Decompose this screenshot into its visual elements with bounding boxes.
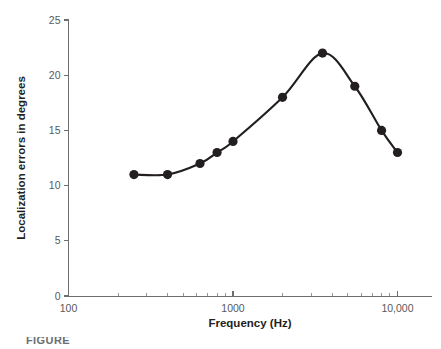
y-tick-label: 10 bbox=[49, 179, 61, 191]
data-series-line bbox=[134, 53, 398, 175]
data-point bbox=[163, 170, 172, 179]
data-point bbox=[318, 49, 327, 58]
x-tick-label: 1000 bbox=[221, 302, 245, 314]
y-axis-ticks bbox=[64, 20, 69, 296]
figure-caption-text: FIGURE bbox=[26, 337, 326, 346]
y-axis-tick-labels: 0510152025 bbox=[49, 14, 61, 302]
y-tick-label: 0 bbox=[55, 290, 61, 302]
data-point bbox=[129, 170, 138, 179]
data-point bbox=[195, 159, 204, 168]
data-point bbox=[350, 82, 359, 91]
y-axis-title: Localization errors in degrees bbox=[15, 76, 27, 240]
figure-container: 0510152025 100100010,000 Frequency (Hz) … bbox=[0, 0, 441, 349]
data-point bbox=[228, 137, 237, 146]
y-tick-label: 20 bbox=[49, 69, 61, 81]
x-tick-label: 100 bbox=[60, 302, 78, 314]
data-point bbox=[377, 126, 386, 135]
axes bbox=[69, 20, 433, 297]
x-axis-title: Frequency (Hz) bbox=[208, 317, 291, 329]
data-point bbox=[393, 148, 402, 157]
y-tick-label: 15 bbox=[49, 124, 61, 136]
localization-error-chart: 0510152025 100100010,000 Frequency (Hz) … bbox=[0, 0, 441, 349]
x-tick-label: 10,000 bbox=[381, 302, 413, 314]
data-point bbox=[212, 148, 221, 157]
x-axis-tick-labels: 100100010,000 bbox=[60, 302, 414, 314]
data-point bbox=[278, 93, 287, 102]
x-axis-minor-ticks bbox=[118, 293, 390, 296]
y-tick-label: 25 bbox=[49, 14, 61, 26]
figure-caption: FIGURE bbox=[26, 337, 326, 349]
y-tick-label: 5 bbox=[55, 234, 61, 246]
